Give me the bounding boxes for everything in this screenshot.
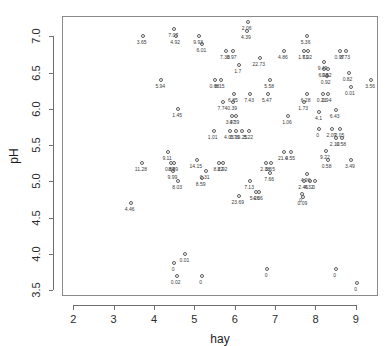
data-point-label: 0.39 [230,120,240,125]
y-axis-tick [49,73,53,74]
data-point [349,158,353,162]
y-axis-tick-label: 4.0 [30,246,42,261]
data-point [200,274,204,278]
data-point [234,129,238,133]
data-point-label: 7.92 [302,55,312,60]
data-point-label: 1.01 [208,135,218,140]
data-point [247,129,251,133]
y-axis-tick-label: 5.5 [30,137,42,152]
data-point-label: 7.43 [244,98,254,103]
y-axis-title: pH [7,148,21,163]
data-point [305,34,309,38]
data-point [246,20,250,24]
data-point [195,158,199,162]
data-point-label: 0 [172,267,175,272]
data-point [234,114,238,118]
y-axis-tick-label: 3.5 [30,283,42,298]
data-point-label: 5.47 [262,98,272,103]
y-axis-line [53,36,54,290]
data-point-label: 5.58 [264,84,274,89]
data-point [324,149,328,153]
data-point-label: 8.92 [218,167,228,172]
data-point-label: 0 [312,185,315,190]
data-point-label: 0 [316,133,319,138]
data-point-label: 8.59 [196,182,206,187]
data-point-label: 8.73 [340,55,350,60]
x-axis-tick-label: 6 [232,313,238,325]
x-axis-tick-label: 9 [353,313,359,325]
data-point-label: 6.01 [197,48,207,53]
data-point-label: 6.43 [330,114,340,119]
data-point-label: 3.49 [345,164,355,169]
data-point-label: 0 [354,287,357,292]
data-point-label: 1.73 [298,106,308,111]
data-point-label: 0.82 [343,77,353,82]
data-point [230,114,234,118]
data-point [306,49,310,53]
data-point [245,29,249,33]
data-point-label: 4.86 [278,55,288,60]
data-point [237,194,241,198]
data-point [302,100,306,104]
data-point-label: 4.92 [170,40,180,45]
data-point [258,56,262,60]
x-axis-line [73,305,356,306]
data-point-label: 0.58 [322,164,332,169]
data-point [224,49,228,53]
y-axis-tick-label: 6.5 [30,65,42,80]
data-point [344,49,348,53]
data-point [228,129,232,133]
data-point [268,171,272,175]
x-axis-tick [356,305,357,310]
data-point [305,92,309,96]
data-point [204,169,208,173]
data-point [334,108,338,112]
data-point-label: 7.66 [264,177,274,182]
data-point-label: 5.36 [301,40,311,45]
data-point-label: 1.06 [282,120,292,125]
x-axis-tick [154,305,155,310]
data-point-label: 0.58 [336,142,346,147]
data-point-label: 7.74 [218,106,228,111]
x-axis-tick [235,305,236,310]
data-point-label: 4.46 [125,207,135,212]
data-point-label: 5.22 [243,135,253,140]
data-point [305,172,309,176]
data-point-label: 0.09 [297,201,307,206]
y-axis-tick-label: 5.0 [30,174,42,189]
data-point-label: 1.45 [172,113,182,118]
x-axis-tick [275,305,276,310]
data-point-label: 0.94 [322,98,332,103]
data-point [355,281,359,285]
y-axis-tick [49,36,53,37]
data-point [326,92,330,96]
y-axis-tick [49,254,53,255]
y-axis-tick [49,218,53,219]
data-point-label: 4.1 [315,116,322,121]
y-axis-tick [49,109,53,110]
y-axis-tick [49,290,53,291]
data-point-label: 5.94 [155,84,165,89]
data-point [200,176,204,180]
x-axis-tick-label: 5 [191,313,197,325]
data-point-label: 8.03 [172,185,182,190]
data-point [172,261,176,265]
data-point [326,158,330,162]
y-axis-tick [49,181,53,182]
data-point-label: 0 [333,273,336,278]
x-axis-tick [114,305,115,310]
data-point [317,127,321,131]
data-point-label: 3.56 [365,84,375,89]
data-point-label: 8.15 [215,84,225,89]
data-point [219,78,223,82]
data-point-label: 4.39 [241,35,251,40]
x-axis-tick-label: 8 [312,313,318,325]
x-axis-tick [73,305,74,310]
data-point-label: 0 [199,280,202,285]
data-point-label: 11.28 [135,167,147,172]
data-point [334,267,338,271]
data-point-label: 0 [265,273,268,278]
data-point-label: 1.7 [234,69,241,74]
data-point-label: 3.65 [137,40,147,45]
